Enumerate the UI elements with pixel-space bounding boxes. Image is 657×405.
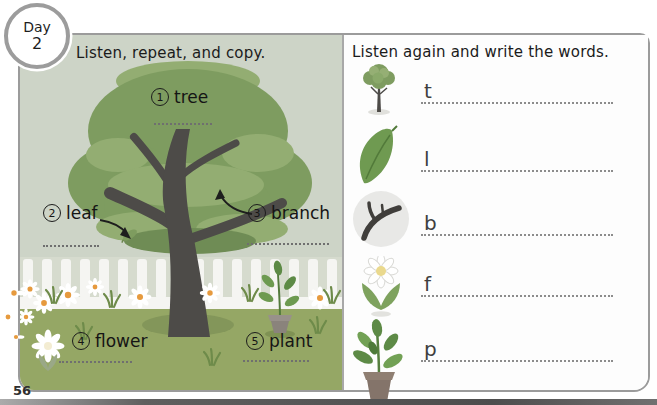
plant-icon — [348, 318, 410, 405]
hint-letter-b: b — [424, 213, 437, 233]
label-branch: 3 branch — [248, 203, 330, 223]
leaf-arrow — [98, 218, 134, 242]
label-plant-word: plant — [269, 331, 312, 351]
write-field-flower[interactable]: f — [421, 267, 613, 297]
tree-icon — [358, 62, 400, 116]
write-field-tree[interactable]: t — [421, 74, 613, 104]
label-plant-number: 5 — [246, 332, 264, 350]
branch-icon — [352, 190, 410, 248]
leaf-icon — [354, 125, 400, 187]
branch-arrow — [212, 187, 256, 217]
hint-letter-f: f — [424, 274, 431, 294]
label-leaf-number: 2 — [43, 204, 61, 222]
label-flower-word: flower — [95, 331, 147, 351]
flower-icon — [356, 256, 406, 318]
write-line-branch[interactable] — [247, 243, 329, 245]
label-plant: 5 plant — [246, 331, 312, 351]
right-panel-title: Listen again and write the words. — [352, 43, 609, 61]
write-line-plant[interactable] — [243, 360, 309, 362]
day-badge-label: Day — [23, 20, 51, 35]
hint-letter-p: p — [424, 339, 437, 359]
label-branch-word: branch — [271, 203, 330, 223]
write-field-branch[interactable]: b — [421, 206, 613, 236]
write-line-tree[interactable] — [154, 123, 212, 125]
label-leaf-word: leaf — [66, 203, 98, 223]
write-line-flower[interactable] — [59, 361, 132, 363]
right-panel-listen-write: Listen again and write the words. t — [344, 35, 648, 390]
write-field-plant[interactable]: p — [421, 332, 613, 362]
label-tree: 1 tree — [151, 87, 208, 107]
label-leaf: 2 leaf — [43, 203, 98, 223]
hint-letter-l: l — [424, 149, 430, 169]
left-panel-listen-repeat-copy: Listen, repeat, and copy. 1 tree 2 leaf … — [20, 35, 344, 390]
label-tree-number: 1 — [151, 88, 169, 106]
day-badge: Day 2 — [4, 3, 70, 69]
worksheet-panels: Listen, repeat, and copy. 1 tree 2 leaf … — [18, 33, 650, 392]
hint-letter-t: t — [424, 81, 432, 101]
label-tree-word: tree — [174, 87, 208, 107]
write-field-leaf[interactable]: l — [421, 142, 613, 172]
day-badge-number: 2 — [32, 35, 42, 53]
workbook-page: Day 2 — [0, 0, 657, 405]
write-line-leaf[interactable] — [43, 245, 99, 247]
page-number: 56 — [13, 383, 31, 398]
label-flower: 4 flower — [72, 331, 147, 351]
edge-flowers-decoration — [0, 281, 28, 347]
left-panel-title: Listen, repeat, and copy. — [76, 44, 265, 62]
page-bottom-edge — [0, 399, 657, 405]
label-flower-number: 4 — [72, 332, 90, 350]
